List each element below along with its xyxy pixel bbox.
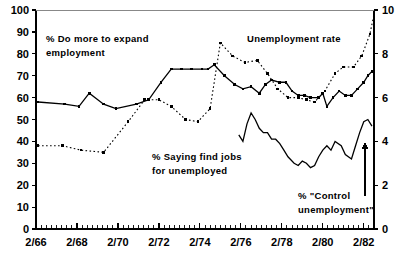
series-marker-0	[242, 88, 245, 91]
series-marker-0	[367, 74, 370, 77]
x-axis-tick-label: 2/80	[312, 236, 333, 248]
series-marker-0	[78, 105, 81, 108]
annotation-find-jobs: % Saying find jobsfor unemployed	[152, 151, 242, 176]
x-axis-tick-label: 2/74	[189, 236, 211, 248]
annotation-text: employment	[46, 47, 105, 58]
right-axis-tick-label: 10	[382, 4, 394, 16]
series-marker-1	[324, 90, 327, 93]
x-axis-tick-label: 2/68	[66, 236, 87, 248]
series-marker-0	[362, 81, 365, 84]
arrow-head	[362, 142, 368, 149]
series-marker-0	[278, 81, 281, 84]
series-marker-0	[264, 83, 267, 86]
right-axis-tick-label: 4	[382, 135, 389, 147]
left-axis-tick-label: 40	[17, 135, 29, 147]
series-marker-1	[80, 149, 83, 152]
series-marker-0	[135, 103, 138, 106]
annotation-text: Unemployment rate	[247, 33, 341, 44]
series-marker-1	[158, 98, 161, 101]
series-marker-0	[356, 88, 359, 91]
line-chart: 010203040506070809010002468102/662/682/7…	[0, 0, 415, 270]
x-axis-tick-label: 2/76	[230, 236, 251, 248]
series-marker-0	[190, 68, 193, 71]
series-marker-1	[297, 96, 300, 99]
series-marker-1	[127, 120, 130, 123]
series-marker-0	[350, 94, 353, 97]
annotation-text: for unemployed	[152, 165, 227, 176]
left-axis-tick-label: 20	[17, 179, 29, 191]
right-axis-tick-label: 0	[382, 223, 388, 235]
series-marker-1	[256, 59, 259, 62]
series-marker-0	[102, 103, 105, 106]
series-marker-1	[305, 98, 308, 101]
left-axis-tick-label: 70	[17, 70, 29, 82]
left-axis-tick-label: 100	[11, 4, 29, 16]
series-marker-1	[276, 88, 279, 91]
series-marker-1	[352, 66, 355, 69]
series-marker-1	[373, 13, 376, 16]
series-marker-1	[369, 33, 372, 36]
series-marker-0	[344, 94, 347, 97]
left-axis-tick-label: 10	[17, 201, 29, 213]
x-axis-tick-label: 2/72	[148, 236, 169, 248]
control-unemployment-arrow	[362, 142, 368, 196]
series-marker-1	[197, 120, 200, 123]
series-marker-1	[287, 96, 290, 99]
series-marker-1	[266, 72, 269, 75]
annotation-text: % "Control	[298, 190, 350, 201]
series-marker-0	[37, 101, 40, 104]
series-marker-0	[88, 92, 91, 95]
left-axis-tick-label: 60	[17, 92, 29, 104]
series-marker-1	[170, 105, 173, 108]
series-marker-0	[258, 92, 261, 95]
series-marker-0	[250, 85, 253, 88]
series-marker-0	[201, 68, 204, 71]
series-marker-0	[303, 94, 306, 97]
chart-container: 010203040506070809010002468102/662/682/7…	[0, 0, 415, 270]
series-marker-0	[233, 83, 236, 86]
left-axis-tick-label: 0	[23, 223, 29, 235]
x-axis-tick-label: 2/82	[353, 236, 374, 248]
series-marker-0	[115, 107, 118, 110]
left-axis-tick-label: 30	[17, 157, 29, 169]
series-marker-1	[313, 101, 316, 104]
left-axis-tick-label: 80	[17, 48, 29, 60]
series-marker-1	[37, 144, 40, 147]
series-marker-0	[285, 81, 288, 84]
series-marker-1	[61, 144, 64, 147]
series-marker-0	[326, 105, 329, 108]
annotation-text: % Saying find jobs	[152, 151, 242, 162]
series-line-0	[38, 65, 372, 109]
annotation-text: % Do more to expand	[46, 33, 149, 44]
x-axis-tick-label: 2/70	[107, 236, 128, 248]
series-marker-1	[231, 55, 234, 58]
left-axis-tick-label: 90	[17, 26, 29, 38]
annotation-unemployment-rate: Unemployment rate	[247, 33, 341, 44]
series-marker-1	[102, 151, 105, 154]
series-marker-1	[342, 66, 345, 69]
series-marker-0	[63, 103, 66, 106]
series-line-2	[239, 113, 372, 168]
series-marker-1	[360, 55, 363, 58]
series-marker-0	[170, 68, 173, 71]
series-marker-1	[334, 72, 337, 75]
series-marker-1	[219, 42, 222, 45]
series-marker-0	[332, 96, 335, 99]
x-axis-tick-label: 2/66	[25, 236, 46, 248]
series-marker-1	[244, 61, 247, 64]
left-axis-tick-label: 50	[17, 114, 29, 126]
series-marker-0	[207, 68, 210, 71]
series-marker-0	[213, 63, 216, 66]
series-marker-0	[223, 74, 226, 77]
series-marker-0	[338, 90, 341, 93]
series-marker-1	[209, 107, 212, 110]
series-marker-1	[184, 118, 187, 121]
series-marker-0	[180, 68, 183, 71]
right-axis-tick-label: 6	[382, 92, 388, 104]
right-axis-tick-label: 8	[382, 48, 388, 60]
series-marker-1	[143, 98, 146, 101]
series-marker-0	[160, 81, 163, 84]
x-axis-tick-label: 2/78	[271, 236, 292, 248]
series-marker-0	[309, 96, 312, 99]
right-axis-tick-label: 2	[382, 179, 388, 191]
